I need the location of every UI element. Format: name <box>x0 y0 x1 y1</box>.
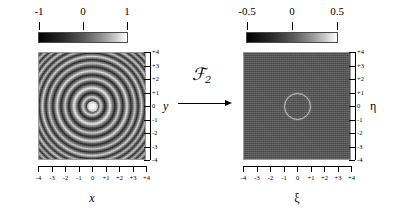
eta-tick <box>349 93 355 94</box>
eta-tick <box>349 52 355 53</box>
eta-tick <box>349 133 355 134</box>
y-axis-title: y <box>163 100 168 112</box>
xi-tick-label: 0 <box>296 175 299 182</box>
left-colorbar-tick <box>39 22 40 30</box>
y-tick-label: +2 <box>152 76 159 83</box>
x-tick <box>106 166 107 172</box>
xi-tick-label: +4 <box>348 175 355 182</box>
xi-tick-label: +2 <box>321 175 328 182</box>
y-tick <box>144 133 150 134</box>
image-grain <box>39 53 145 159</box>
y-tick-label: -4 <box>152 157 157 164</box>
left-colorbar-gradient <box>38 32 128 43</box>
xi-axis-title: ξ <box>294 192 299 204</box>
xi-tick <box>338 166 339 172</box>
y-tick-label: -3 <box>152 143 157 150</box>
eta-tick <box>349 79 355 80</box>
right-colorbar-tick <box>247 22 248 30</box>
right-colorbar-label-mid: 0 <box>289 6 295 17</box>
x-tick-label: +4 <box>143 175 150 182</box>
left-colorbar-label-mid: 0 <box>80 6 86 17</box>
y-tick-label: -1 <box>152 116 157 123</box>
eta-tick-label: -2 <box>357 130 362 137</box>
x-tick <box>119 166 120 172</box>
xi-tick-label: -4 <box>241 175 246 182</box>
y-tick <box>144 147 150 148</box>
xi-tick <box>311 166 312 172</box>
x-tick <box>65 166 66 172</box>
xi-tick <box>324 166 325 172</box>
y-tick <box>144 120 150 121</box>
spectrum-ring <box>284 93 311 120</box>
x-tick <box>79 166 80 172</box>
transform-arrow-head <box>225 100 232 106</box>
y-tick-label: +3 <box>152 62 159 69</box>
right-colorbar-gradient <box>246 32 338 43</box>
eta-tick-label: 0 <box>357 103 360 110</box>
y-tick-label: +1 <box>152 89 159 96</box>
right-y-axis-line <box>355 52 356 160</box>
x-tick <box>146 166 147 172</box>
left-colorbar <box>38 32 128 43</box>
left-colorbar-label-max: 1 <box>124 6 130 17</box>
y-tick <box>144 93 150 94</box>
eta-tick-label: +4 <box>357 49 364 56</box>
eta-tick-label: -1 <box>357 116 362 123</box>
frequency-domain-image <box>243 52 351 160</box>
right-colorbar-tick <box>337 22 338 30</box>
x-tick <box>52 166 53 172</box>
y-tick <box>144 106 150 107</box>
xi-tick-label: -1 <box>281 175 286 182</box>
xi-tick-label: -2 <box>268 175 273 182</box>
left-y-axis-line <box>150 52 151 160</box>
right-colorbar-label-max: 0.5 <box>330 6 344 17</box>
right-colorbar-tick <box>292 22 293 30</box>
x-tick-label: -3 <box>49 175 54 182</box>
xi-tick <box>351 166 352 172</box>
eta-tick <box>349 106 355 107</box>
xi-tick <box>270 166 271 172</box>
spatial-domain-image <box>38 52 146 160</box>
x-tick-label: -2 <box>63 175 68 182</box>
fourier-operator-symbol: ℱ2 <box>192 66 211 88</box>
xi-tick <box>257 166 258 172</box>
left-colorbar-label-min: -1 <box>34 6 43 17</box>
eta-tick-label: +3 <box>357 62 364 69</box>
x-tick-label: -4 <box>36 175 41 182</box>
operator-subscript: 2 <box>205 74 211 85</box>
x-tick-label: +1 <box>103 175 110 182</box>
y-tick <box>144 52 150 53</box>
eta-tick <box>349 160 355 161</box>
x-tick <box>38 166 39 172</box>
xi-tick-label: -3 <box>254 175 259 182</box>
y-tick <box>144 66 150 67</box>
xi-tick-label: +1 <box>308 175 315 182</box>
xi-tick <box>297 166 298 172</box>
xi-tick <box>284 166 285 172</box>
script-f-glyph: ℱ <box>192 64 205 84</box>
eta-tick-label: +1 <box>357 89 364 96</box>
x-tick-label: -1 <box>76 175 81 182</box>
xi-tick-label: +3 <box>335 175 342 182</box>
eta-tick <box>349 66 355 67</box>
x-axis-title: x <box>89 192 94 204</box>
eta-tick <box>349 147 355 148</box>
left-colorbar-tick <box>83 22 84 30</box>
x-tick-label: +2 <box>116 175 123 182</box>
left-colorbar-tick <box>127 22 128 30</box>
xi-tick <box>243 166 244 172</box>
x-tick-label: 0 <box>91 175 94 182</box>
y-tick <box>144 79 150 80</box>
right-colorbar-label-min: -0.5 <box>238 6 255 17</box>
y-tick-label: -2 <box>152 130 157 137</box>
y-tick-label: +4 <box>152 49 159 56</box>
eta-axis-title: η <box>370 100 376 112</box>
eta-tick-label: +2 <box>357 76 364 83</box>
eta-tick <box>349 120 355 121</box>
y-tick <box>144 160 150 161</box>
x-tick-label: +3 <box>130 175 137 182</box>
x-tick <box>133 166 134 172</box>
y-tick-label: 0 <box>152 103 155 110</box>
eta-tick-label: -3 <box>357 143 362 150</box>
x-tick <box>92 166 93 172</box>
